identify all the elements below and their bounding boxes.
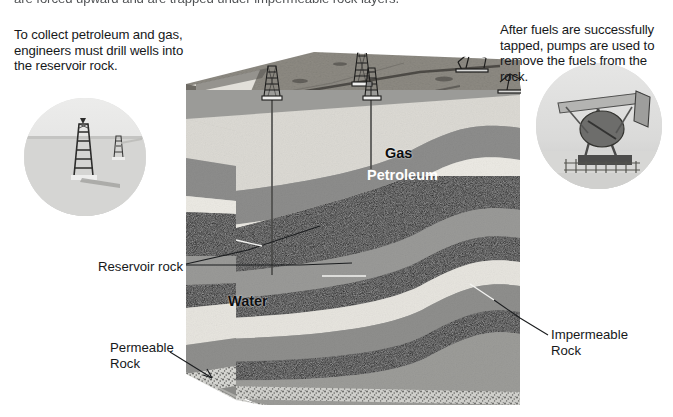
label-impermeable-rock: Impermeable Rock	[551, 327, 628, 358]
label-reservoir-rock: Reservoir rock	[98, 259, 183, 275]
drilling-derricks-photo	[24, 98, 146, 216]
petroleum-reservoir-figure: are forced upward and are trapped under …	[0, 0, 673, 417]
left-cross-section-face	[186, 119, 236, 404]
label-permeable-rock: Permeable Rock	[110, 340, 174, 371]
clipped-top-caption: are forced upward and are trapped under …	[14, 0, 434, 7]
label-water: Water	[228, 293, 268, 309]
left-caption: To collect petroleum and gas, engineers …	[14, 27, 190, 74]
label-gas: Gas	[385, 145, 412, 161]
right-caption: After fuels are successfully tapped, pum…	[500, 22, 672, 84]
label-petroleum: Petroleum	[367, 167, 438, 183]
